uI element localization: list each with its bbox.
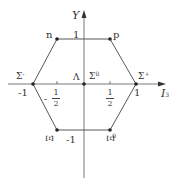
tick-label-x-minus-half-sign: - xyxy=(44,95,47,104)
label-p: p xyxy=(113,30,119,40)
tick-label-x-1: 1 xyxy=(134,88,140,98)
point-xi-minus xyxy=(55,128,59,132)
point-n xyxy=(55,37,59,41)
label-xi-zero-sup: 0 xyxy=(112,132,116,139)
label-xi-zero: Ξ0 xyxy=(106,134,116,143)
point-sigma-minus xyxy=(31,82,35,86)
frac-den: 2 xyxy=(52,100,60,108)
label-sigma-plus: Σ+ xyxy=(138,72,149,81)
label-sigma-minus: Σ- xyxy=(16,72,24,81)
tick-label-y-minus-1: -1 xyxy=(66,135,76,145)
y-axis-arrow-icon xyxy=(82,10,87,18)
tick-label-y-1: 1 xyxy=(73,30,79,40)
frac-num: 1 xyxy=(106,89,114,97)
tick-label-x-plus-half: 1 2 xyxy=(106,89,114,108)
point-p xyxy=(108,37,112,41)
i3-axis-label-sub: 3 xyxy=(165,91,169,98)
label-sigma-zero-sup: 0 xyxy=(95,70,99,77)
i3-axis-arrow-icon xyxy=(158,82,166,87)
y-axis-label: Y xyxy=(72,10,79,21)
point-sigma-plus xyxy=(134,82,138,86)
point-lambda-sigma0 xyxy=(82,82,86,86)
label-xi-minus: Ξ- xyxy=(45,134,53,143)
frac-num: 1 xyxy=(52,89,60,97)
octet-diagram: Y I3 n p Σ- Σ+ Λ Σ0 Ξ- Ξ0 1 -1 -1 1 - 1 … xyxy=(0,0,179,190)
label-sigma-minus-sup: - xyxy=(22,70,24,77)
label-n: n xyxy=(46,30,52,40)
tick-label-x-minus-1: -1 xyxy=(18,88,28,98)
i3-axis-label: I3 xyxy=(161,88,169,99)
label-sigma-zero: Σ0 xyxy=(89,72,99,81)
tick-label-x-minus-half: 1 2 xyxy=(52,89,60,108)
label-lambda: Λ xyxy=(73,73,80,82)
label-sigma-plus-sup: + xyxy=(144,70,149,77)
frac-den: 2 xyxy=(106,100,114,108)
